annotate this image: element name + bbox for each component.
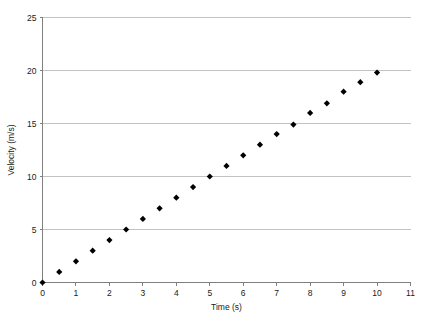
- x-axis-ticks: 01234567891011: [40, 283, 415, 298]
- y-tick-label: 25: [27, 13, 37, 23]
- data-point: [357, 79, 363, 85]
- y-tick-label: 5: [32, 225, 37, 235]
- x-tick-label: 8: [308, 288, 313, 298]
- caption-fragment: [4, 325, 194, 332]
- x-tick-label: 1: [74, 288, 79, 298]
- data-point: [173, 195, 179, 201]
- y-tick-label: 20: [27, 66, 37, 76]
- x-tick-label: 6: [241, 288, 246, 298]
- y-axis-title: Velocity (m/s): [6, 124, 16, 175]
- data-point-markers: [39, 70, 380, 286]
- data-point: [106, 237, 112, 243]
- data-point: [140, 216, 146, 222]
- data-point: [73, 258, 79, 264]
- x-tick-label: 9: [341, 288, 346, 298]
- data-point: [257, 142, 263, 148]
- data-point: [39, 279, 45, 285]
- chart-canvas: 01234567891011 0510152025 Time (s) Veloc…: [0, 0, 427, 332]
- velocity-time-chart-figure: 01234567891011 0510152025 Time (s) Veloc…: [0, 0, 427, 332]
- horizontal-gridlines: [43, 18, 411, 230]
- data-point: [56, 269, 62, 275]
- data-point: [156, 205, 162, 211]
- data-point: [290, 121, 296, 127]
- x-tick-label: 2: [107, 288, 112, 298]
- x-axis-title: Time (s): [211, 302, 242, 312]
- data-point: [307, 110, 313, 116]
- data-point: [240, 152, 246, 158]
- x-tick-label: 5: [207, 288, 212, 298]
- axes: [43, 18, 411, 283]
- x-tick-label: 11: [406, 288, 415, 298]
- y-axis-ticks: 0510152025: [27, 13, 42, 288]
- data-point: [340, 89, 346, 95]
- data-point: [207, 173, 213, 179]
- x-tick-label: 3: [140, 288, 145, 298]
- data-point: [324, 100, 330, 106]
- x-tick-label: 10: [372, 288, 382, 298]
- data-point: [90, 248, 96, 254]
- y-tick-label: 0: [32, 278, 37, 288]
- data-point: [190, 184, 196, 190]
- data-point: [223, 163, 229, 169]
- y-tick-label: 15: [27, 119, 37, 129]
- x-tick-label: 7: [274, 288, 279, 298]
- y-tick-label: 10: [27, 172, 37, 182]
- x-tick-label: 4: [174, 288, 179, 298]
- data-point: [274, 131, 280, 137]
- data-point: [123, 226, 129, 232]
- x-tick-label: 0: [40, 288, 45, 298]
